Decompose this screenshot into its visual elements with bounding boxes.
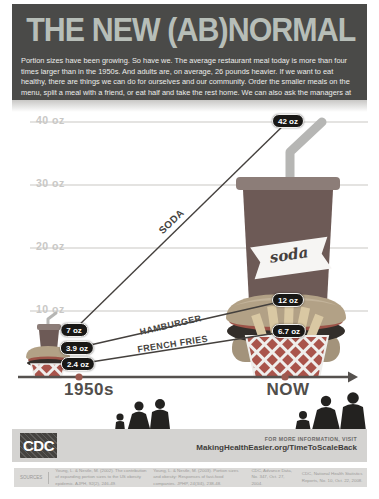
footer: CDC FOR MORE INFORMATION, VISIT MakingHe…	[12, 429, 367, 462]
badge-fries-now: 6.7 oz	[272, 324, 306, 338]
badge-hamburger-now: 12 oz	[272, 293, 304, 307]
cup-lid	[236, 177, 340, 190]
fries-basket-icon	[246, 336, 328, 378]
source-citation: CDC, Advance Data, No. 347, Oct. 27, 200…	[251, 468, 295, 488]
source-citation: CDC, National Health Statistics Reports,…	[302, 471, 363, 484]
source-citation: Young, L. & Nestle, M. (2002). The contr…	[55, 468, 147, 488]
badge-hamburger-1950s: 3.9 oz	[60, 341, 94, 355]
axis-arrow-icon	[348, 372, 358, 383]
sources-strip: SOURCES Young, L. & Nestle, M. (2002). T…	[14, 468, 367, 487]
chart-graphic	[0, 0, 379, 499]
source-citation: Young, L. & Nestle, M. (2003). Portion s…	[153, 468, 245, 488]
sources-label: SOURCES	[20, 475, 42, 480]
badge-fries-1950s: 2.4 oz	[61, 357, 95, 371]
cdc-logo: CDC	[20, 433, 57, 458]
more-info-label: FOR MORE INFORMATION, VISIT	[265, 436, 357, 442]
divider	[48, 472, 49, 484]
badge-soda-1950s: 7 oz	[60, 323, 88, 337]
straw-icon	[290, 122, 322, 186]
infographic-poster: THE NEW (AB)NORMAL Portion sizes have be…	[0, 0, 379, 499]
x-label-1950s: 1950s	[57, 380, 121, 400]
badge-soda-now: 42 oz	[272, 114, 304, 128]
campaign-url: MakingHealthEasier.org/TimeToScaleBack	[196, 443, 357, 452]
x-label-now: NOW	[261, 380, 315, 400]
